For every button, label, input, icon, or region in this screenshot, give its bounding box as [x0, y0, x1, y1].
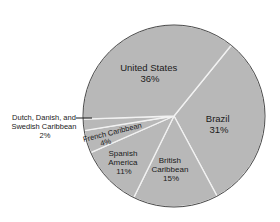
- pie-chart: United States 36% Brazil 31% British Car…: [0, 0, 280, 222]
- label-brazil: Brazil 31%: [206, 113, 232, 135]
- label-dutch-danish-swedish-caribbean: Dutch, Danish, and Swedish Caribbean 2%: [11, 113, 78, 140]
